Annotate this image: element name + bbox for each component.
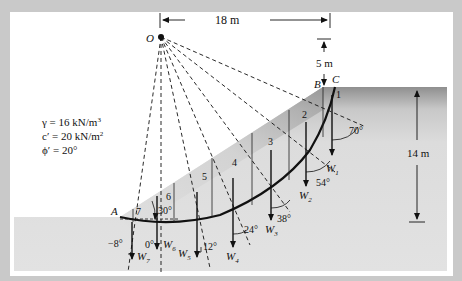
soil-cohesion: c′ = 20 kN/m2	[42, 130, 104, 142]
center-point-o	[158, 34, 164, 40]
svg-text:6: 6	[166, 191, 171, 202]
svg-text:0°: 0°	[145, 239, 154, 250]
svg-text:7: 7	[136, 206, 141, 217]
svg-text:70°: 70°	[349, 125, 363, 136]
dimension-18m-label: 18 m	[215, 13, 240, 27]
svg-text:5: 5	[202, 171, 207, 182]
point-b-label: B	[314, 78, 321, 90]
svg-text:4: 4	[232, 157, 237, 168]
svg-text:24°: 24°	[244, 224, 258, 235]
soil-gamma: γ = 16 kN/m3	[41, 116, 101, 128]
svg-text:12°: 12°	[203, 241, 217, 252]
point-a-label: A	[110, 205, 118, 217]
soil-friction-angle: ϕ′ = 20°	[42, 144, 77, 156]
svg-text:2: 2	[302, 109, 307, 120]
center-label-o: O	[146, 32, 154, 44]
svg-text:3: 3	[268, 136, 273, 147]
dimension-14m-label: 14 m	[407, 147, 430, 159]
slope-stability-diagram: 18 m 5 m 14 m O A B C γ = 16 kN/m3 c′ = …	[0, 0, 462, 281]
point-c-label: C	[332, 73, 340, 85]
svg-text:1: 1	[336, 89, 341, 100]
svg-text:−8°: −8°	[108, 238, 123, 249]
dimension-5m-label: 5 m	[316, 57, 333, 69]
svg-text:54°: 54°	[316, 177, 330, 188]
slope-angle-label: 30°	[158, 205, 172, 216]
svg-text:38°: 38°	[277, 213, 291, 224]
